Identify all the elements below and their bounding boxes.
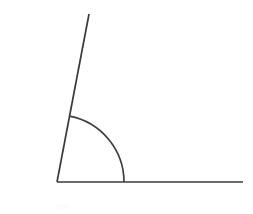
angle-figure-canvas <box>0 0 253 214</box>
faint-smudge <box>55 204 68 209</box>
angle-diagram-svg <box>0 0 253 214</box>
slanted-ray <box>57 14 89 182</box>
angle-marker-arc <box>69 116 124 182</box>
